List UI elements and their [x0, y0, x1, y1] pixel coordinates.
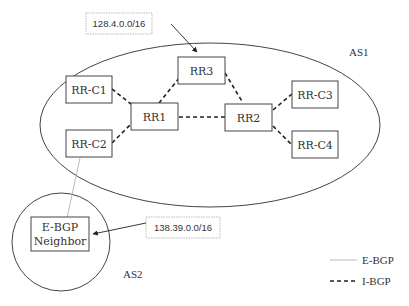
node-rr3-label: RR3 — [190, 65, 214, 78]
prefix-label-138: 138.39.0.0/16 — [154, 222, 212, 233]
node-rrc4-label: RR-C4 — [297, 139, 333, 152]
node-rrc2-label: RR-C2 — [71, 138, 107, 151]
as2-label: AS2 — [123, 268, 143, 280]
node-ebgp-label-line1: E-BGP — [42, 221, 79, 234]
link-rr3-rr2 — [225, 73, 243, 103]
arrow-prefix-138-to-ebgp — [93, 223, 146, 234]
legend-ibgp-label: I-BGP — [362, 275, 391, 287]
node-ebgp-label-line2: Neighbor — [34, 235, 87, 248]
node-rrc1-label: RR-C1 — [71, 84, 107, 97]
link-rrc2-rr1 — [112, 124, 131, 143]
link-rr2-rrc3 — [273, 94, 292, 110]
legend-ebgp-label: E-BGP — [362, 254, 394, 266]
arrow-prefix-128-to-rr3 — [171, 24, 197, 52]
link-rr2-rrc4 — [273, 126, 292, 145]
link-rrc1-rr1 — [112, 89, 131, 104]
prefix-label-128: 128.4.0.0/16 — [93, 18, 146, 29]
node-rr1-label: RR1 — [143, 111, 167, 124]
bgp-topology-diagram: RR-C1 RR-C2 RR1 RR3 RR2 RR-C3 RR-C4 E-BG… — [0, 0, 409, 306]
as1-label: AS1 — [349, 46, 369, 58]
link-rr1-rr3 — [159, 77, 180, 103]
node-rrc3-label: RR-C3 — [297, 89, 333, 102]
link-rrc2-ebgp — [67, 158, 80, 218]
node-rr2-label: RR2 — [237, 112, 261, 125]
